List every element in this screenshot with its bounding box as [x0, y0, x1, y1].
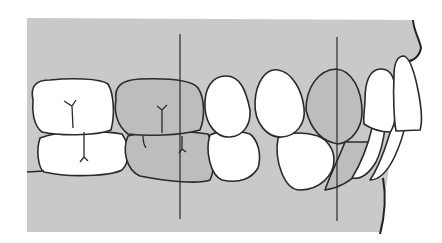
lower-first-molar	[125, 131, 213, 182]
upper-central-incisor	[394, 56, 422, 131]
lower-second-premolar	[208, 131, 259, 181]
lower-second-molar	[38, 131, 128, 175]
dental-occlusion-diagram	[0, 0, 442, 243]
upper-lateral-incisor	[364, 69, 396, 132]
upper-first-molar	[115, 79, 203, 135]
